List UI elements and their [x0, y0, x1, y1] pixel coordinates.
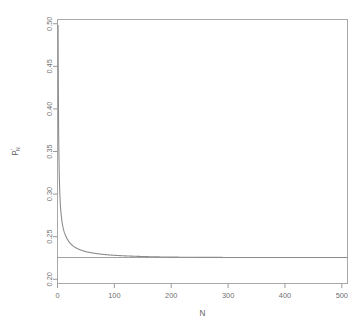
y-axis-title: P'N — [9, 147, 21, 156]
line-chart: 0.200.250.300.350.400.450.50010020030040… — [0, 0, 362, 330]
x-tick-label-300: 300 — [222, 291, 234, 300]
x-tick-label-100: 100 — [108, 291, 120, 300]
y-tick-label-0.30: 0.30 — [45, 187, 54, 201]
x-tick-label-200: 200 — [165, 291, 177, 300]
x-tick-label-0: 0 — [55, 291, 59, 300]
y-axis-title-text: P'N — [9, 147, 21, 156]
y-tick-label-0.25: 0.25 — [45, 229, 54, 243]
x-axis-title: N — [200, 309, 206, 318]
plot-box-frame — [58, 20, 348, 284]
x-tick-label-500: 500 — [336, 291, 348, 300]
y-tick-label-0.35: 0.35 — [45, 144, 54, 158]
y-tick-label-0.50: 0.50 — [45, 17, 54, 31]
y-tick-label-0.45: 0.45 — [45, 59, 54, 73]
data-curve-pn — [58, 25, 347, 257]
x-tick-label-400: 400 — [279, 291, 291, 300]
y-tick-label-0.20: 0.20 — [45, 272, 54, 286]
chart-plot-area: 0.200.250.300.350.400.450.50010020030040… — [0, 0, 362, 330]
y-tick-label-0.40: 0.40 — [45, 102, 54, 116]
